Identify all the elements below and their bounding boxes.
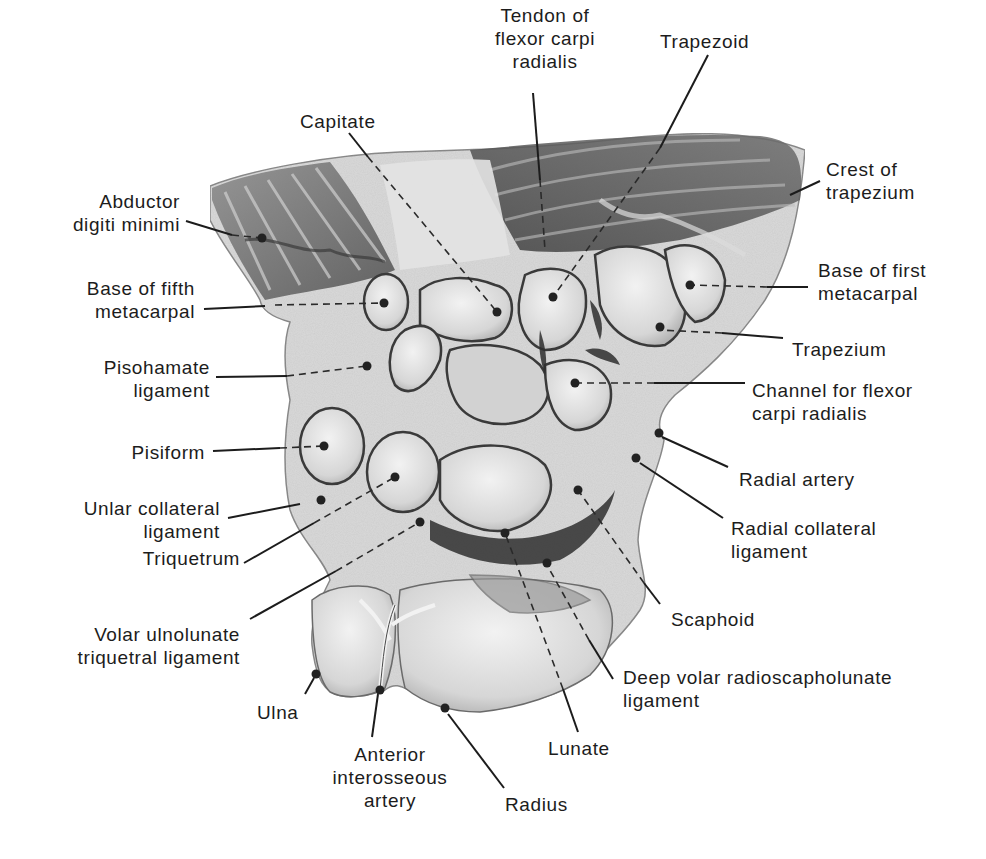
pointer-dot-ulnar-collateral-ligament <box>317 496 326 505</box>
forearm-bones <box>312 575 612 712</box>
pointer-dot-lunate <box>501 529 510 538</box>
pointer-dot-radius <box>441 704 450 713</box>
leader-line-pisohamate-ligament <box>216 376 287 377</box>
label-base-of-fifth-metacarpal: Base of fifth metacarpal <box>20 277 195 323</box>
leader-line-triquetrum <box>244 523 314 563</box>
label-radial-collateral-ligament: Radial collateral ligament <box>731 517 911 563</box>
leader-line-lunate <box>563 689 578 732</box>
label-radius: Radius <box>505 793 595 816</box>
pointer-dot-channel-fcr <box>571 379 580 388</box>
leader-line-pisiform <box>213 448 280 451</box>
leader-line-radial-artery <box>662 437 728 467</box>
label-scaphoid: Scaphoid <box>671 608 791 631</box>
label-base-of-first-metacarpal: Base of first metacarpal <box>818 259 968 305</box>
label-capitate: Capitate <box>300 110 400 133</box>
pointer-dot-capitate <box>493 308 502 317</box>
pointer-dot-radial-artery <box>655 429 664 438</box>
pointer-dot-pisiform <box>320 442 329 451</box>
label-lunate: Lunate <box>548 737 638 760</box>
pointer-dot-radial-collateral-ligament <box>632 454 641 463</box>
pointer-dot-base-of-first-metacarpal <box>686 281 695 290</box>
label-abductor-digiti-minimi: Abductor digiti minimi <box>40 190 180 236</box>
label-crest-of-trapezium: Crest of trapezium <box>826 158 966 204</box>
pointer-dot-deep-volar-radioscapholunate-ligament <box>543 559 552 568</box>
wrist-anatomy-figure: Tendon of flexor carpi radialisTrapezoid… <box>0 0 986 859</box>
pointer-dot-trapezoid <box>549 293 558 302</box>
label-channel-fcr: Channel for flexor carpi radialis <box>752 379 962 425</box>
pointer-dot-abductor-digiti-minimi <box>258 234 267 243</box>
label-radial-artery: Radial artery <box>739 468 899 491</box>
wrist-illustration <box>0 0 986 859</box>
pointer-dot-scaphoid <box>574 486 583 495</box>
leader-line-ulnar-collateral-ligament <box>228 504 300 518</box>
pointer-dot-volar-ulnolunate-triquetral-ligament <box>416 518 425 527</box>
label-trapezoid: Trapezoid <box>660 30 780 53</box>
label-anterior-interosseous-artery: Anterior interosseous artery <box>320 743 460 812</box>
label-pisohamate-ligament: Pisohamate ligament <box>40 356 210 402</box>
leader-line-base-of-fifth-metacarpal <box>204 306 265 309</box>
pointer-dot-anterior-interosseous-artery <box>376 686 385 695</box>
label-volar-ulnolunate-triquetral-ligament: Volar ulnolunate triquetral ligament <box>40 623 240 669</box>
pointer-dot-ulna <box>312 670 321 679</box>
label-ulna: Ulna <box>257 701 317 724</box>
leader-line-anterior-interosseous-artery <box>372 694 378 737</box>
pointer-dot-trapezium <box>656 323 665 332</box>
leader-line-radial-collateral-ligament <box>640 463 723 518</box>
leader-line-scaphoid <box>644 583 660 604</box>
label-pisiform: Pisiform <box>95 441 205 464</box>
leader-line-ulna <box>305 678 314 694</box>
flexor-retinaculum-shape <box>380 159 510 270</box>
pointer-dot-pisohamate-ligament <box>363 362 372 371</box>
pointer-dot-base-of-fifth-metacarpal <box>380 299 389 308</box>
label-tendon-fcr: Tendon of flexor carpi radialis <box>470 4 620 73</box>
label-deep-volar-radioscapholunate-ligament: Deep volar radioscapholunate ligament <box>623 666 943 712</box>
label-ulnar-collateral-ligament: Unlar collateral ligament <box>30 497 220 543</box>
leader-line-capitate <box>349 133 368 157</box>
pointer-dot-triquetrum <box>391 473 400 482</box>
label-triquetrum: Triquetrum <box>110 547 240 570</box>
label-trapezium: Trapezium <box>792 338 932 361</box>
